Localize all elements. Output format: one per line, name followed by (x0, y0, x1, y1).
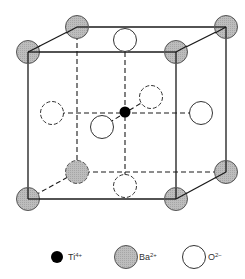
legend-titanium-symbol: Ti (68, 252, 75, 262)
oxygen-legend-icon (183, 246, 206, 269)
legend-item-titanium: Ti4+ (51, 251, 83, 263)
legend-titanium-charge: 4+ (75, 252, 82, 258)
svg-text:Ti4+: Ti4+ (68, 252, 83, 262)
oxygen-left-icon (41, 102, 64, 125)
legend: Ti4+ Ba2+ O2− (51, 246, 222, 269)
perovskite-unit-cell-diagram: Ti4+ Ba2+ O2− (0, 0, 245, 279)
oxygen-back-icon (140, 86, 163, 109)
oxygen-front-icon (91, 116, 114, 139)
oxygen-right-icon (190, 102, 213, 125)
oxygen-bottom-icon (114, 175, 137, 198)
visible-oxygen-ions (91, 29, 213, 139)
legend-barium-charge: 2+ (150, 252, 157, 258)
titanium-center-icon (120, 107, 131, 118)
svg-text:O2−: O2− (208, 252, 222, 262)
barium-legend-icon (115, 246, 138, 269)
hidden-oxygen-ions (41, 86, 163, 198)
legend-barium-symbol: Ba (139, 252, 150, 262)
oxygen-top-icon (114, 29, 137, 52)
svg-text:Ba2+: Ba2+ (139, 252, 157, 262)
legend-oxygen-charge: 2− (215, 252, 222, 258)
titanium-legend-icon (51, 251, 63, 263)
barium-back-bottom-left-icon (66, 161, 89, 184)
legend-oxygen-symbol: O (208, 252, 215, 262)
legend-item-barium: Ba2+ (115, 246, 158, 269)
legend-item-oxygen: O2− (183, 246, 223, 269)
